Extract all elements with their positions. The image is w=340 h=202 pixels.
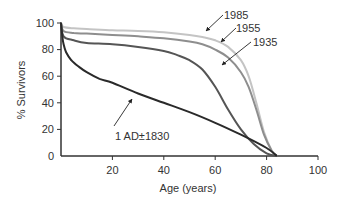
survivorship-chart: % Survivors 100 80 60 40 20 0 20 40 60 8… bbox=[0, 0, 340, 202]
x-tick-100: 100 bbox=[309, 164, 327, 176]
x-tick-20: 20 bbox=[106, 164, 118, 176]
x-tick-60: 60 bbox=[209, 164, 221, 176]
annotation-1985: 1985 bbox=[224, 9, 248, 21]
y-tick-0: 0 bbox=[48, 150, 54, 162]
y-tick-40: 40 bbox=[42, 97, 54, 109]
x-tick-40: 40 bbox=[158, 164, 170, 176]
annotation-1ad-1830: 1 AD±1830 bbox=[115, 130, 169, 142]
x-tick-80: 80 bbox=[260, 164, 272, 176]
y-axis-label: % Survivors bbox=[15, 60, 27, 119]
y-tick-80: 80 bbox=[42, 43, 54, 55]
y-tick-20: 20 bbox=[42, 123, 54, 135]
x-axis-label: Age (years) bbox=[160, 182, 217, 194]
x-tick-labels: 20 40 60 80 100 bbox=[106, 164, 327, 176]
arrow-1ad bbox=[114, 99, 132, 126]
annotations: 1985 1955 1935 1 AD±1830 bbox=[114, 9, 277, 142]
annotation-1955: 1955 bbox=[236, 22, 260, 34]
arrow-1985 bbox=[206, 15, 223, 31]
y-tick-100: 100 bbox=[36, 17, 54, 29]
annotation-1935: 1935 bbox=[253, 36, 277, 48]
y-tick-labels: 100 80 60 40 20 0 bbox=[36, 17, 54, 162]
y-tick-60: 60 bbox=[42, 70, 54, 82]
arrow-1955 bbox=[221, 28, 236, 42]
